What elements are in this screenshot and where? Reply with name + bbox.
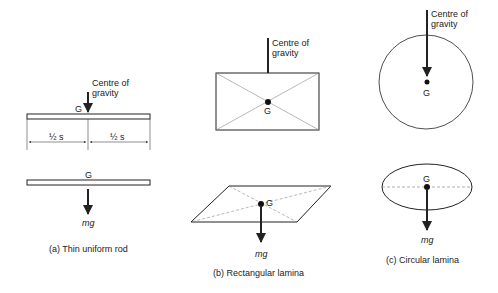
cog-label-b-line1: Centre of <box>272 38 310 48</box>
g-label-b-bottom: G <box>266 198 273 208</box>
cog-label-b-line2: gravity <box>272 48 299 58</box>
half-s-left: ½ s <box>49 132 64 142</box>
caption-b: (b) Rectangular lamina <box>213 268 304 278</box>
centre-dot-c-top <box>425 80 430 85</box>
weight-label-c: mg <box>421 235 434 245</box>
g-label-c-top: G <box>423 88 430 98</box>
panel-a-thin-rod: Centre of gravity G ½ s ½ s G mg (a) Thi… <box>27 78 150 254</box>
panel-c-circular-lamina: Centre of gravity G G mg (c) Circular la… <box>379 9 473 265</box>
cog-label-c-line1: Centre of <box>431 9 469 19</box>
cog-label-c-line2: gravity <box>431 19 458 29</box>
weight-label-a: mg <box>82 218 95 228</box>
cog-label-a-line1: Centre of <box>92 78 130 88</box>
panel-b-rectangular-lamina: Centre of gravity G G mg (b) Rectangular… <box>191 38 331 278</box>
centre-dot-b-top <box>265 99 271 105</box>
weight-label-b: mg <box>255 249 268 259</box>
centre-of-gravity-diagram: Centre of gravity G ½ s ½ s G mg (a) Thi… <box>0 0 498 293</box>
centre-dot-b-bottom <box>258 201 264 207</box>
cog-label-a-line2: gravity <box>92 88 119 98</box>
caption-c: (c) Circular lamina <box>386 255 459 265</box>
g-label-c-bottom: G <box>423 174 430 184</box>
centre-dot-c-bottom <box>424 184 430 190</box>
rod-bottom <box>27 180 150 185</box>
caption-a: (a) Thin uniform rod <box>49 244 128 254</box>
g-label-b-top: G <box>264 106 271 116</box>
g-label-a-top: G <box>75 104 82 114</box>
rod-top <box>27 114 150 119</box>
g-label-a-bottom: G <box>85 170 92 180</box>
half-s-right: ½ s <box>110 132 125 142</box>
